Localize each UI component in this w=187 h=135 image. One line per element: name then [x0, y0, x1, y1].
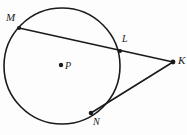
- point-label-l: L: [122, 34, 128, 44]
- geometry-figure: M L K N P: [0, 0, 187, 135]
- geometry-canvas: [0, 0, 187, 135]
- point-label-n: N: [93, 117, 100, 127]
- point-m-dot: [17, 26, 21, 30]
- secant-mlk-line: [19, 28, 173, 62]
- point-n-dot: [89, 111, 94, 116]
- point-label-m: M: [6, 12, 15, 23]
- point-k-dot: [171, 60, 176, 65]
- secant-kn-line: [91, 62, 173, 113]
- point-label-k: K: [178, 55, 185, 66]
- point-p-center-dot: [59, 63, 63, 67]
- point-label-p: P: [65, 61, 71, 71]
- point-l-dot: [118, 49, 122, 53]
